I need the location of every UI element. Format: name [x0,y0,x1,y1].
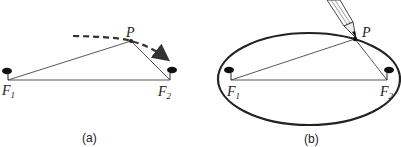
string-f1-p [8,41,131,80]
string-p-f2 [131,41,170,80]
pencil-icon [327,0,356,38]
label-f2: F2 [157,84,172,101]
label-f1: F1 [1,83,15,100]
caption-b: (b) [304,132,319,146]
caption-a: (a) [82,131,97,145]
ellipse-construction-diagram: F1 F2 P (a) F1 F2 P (b) [0,0,401,147]
pin-f1-icon [224,67,234,80]
ellipse-curve [218,33,400,125]
panel-b: F1 F2 P (b) [218,0,400,146]
label-p: P [361,25,371,40]
label-f1: F1 [226,84,240,101]
label-f2: F2 [379,84,394,101]
point-p [353,37,357,41]
motion-arrow [73,36,163,56]
pin-f1-icon [2,68,12,80]
label-p: P [125,25,135,40]
panel-a: F1 F2 P (a) [1,25,177,145]
